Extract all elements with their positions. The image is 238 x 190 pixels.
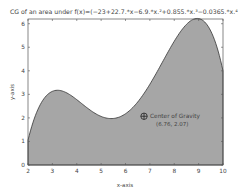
cg-area-chart: CG of an area under f(x)=(−23+22.7.*x−6.…: [0, 0, 238, 190]
x-tick-label: 9: [197, 168, 201, 174]
cg-label: Center of Gravity: [150, 113, 201, 120]
x-tick-label: 3: [51, 168, 55, 174]
y-tick-label: 2: [21, 115, 25, 121]
x-tick-label: 5: [99, 168, 103, 174]
x-tick-label: 2: [26, 168, 30, 174]
y-tick-label: 1: [21, 138, 25, 144]
y-tick-label: 5: [21, 44, 25, 50]
x-tick-label: 10: [219, 168, 227, 174]
cg-coordinates: (6.76, 2.07): [156, 121, 188, 127]
y-axis-label: y-axis: [9, 84, 16, 100]
center-of-gravity-marker: [141, 113, 147, 119]
y-tick-label: 3: [21, 91, 25, 97]
x-tick-label: 7: [148, 168, 152, 174]
y-tick-label: 0: [21, 162, 25, 168]
chart-title: CG of an area under f(x)=(−23+22.7.*x−6.…: [10, 8, 238, 15]
x-tick-label: 6: [124, 168, 128, 174]
x-tick-label: 8: [172, 168, 176, 174]
y-tick-label: 4: [21, 68, 25, 74]
y-tick-label: 6: [21, 21, 25, 27]
x-tick-label: 4: [75, 168, 79, 174]
x-axis-label: x-axis: [117, 182, 133, 188]
